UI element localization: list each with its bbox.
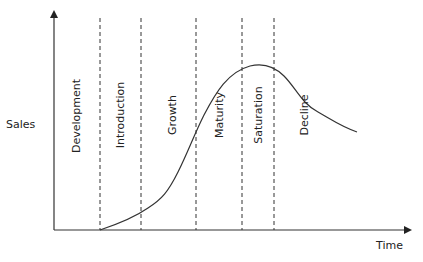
stage-label-growth: Growth <box>166 95 179 135</box>
stage-label-development: Development <box>70 78 83 153</box>
product-life-cycle-diagram: Sales Time Development Introduction Grow… <box>0 0 423 262</box>
stage-label-decline: Decline <box>298 94 311 135</box>
sales-curve <box>100 65 357 230</box>
stage-label-saturation: Saturation <box>252 86 265 143</box>
stage-label-introduction: Introduction <box>114 82 127 149</box>
diagram-canvas: Sales Time Development Introduction Grow… <box>0 0 423 262</box>
x-axis-label: Time <box>375 239 403 252</box>
stage-label-maturity: Maturity <box>213 92 226 138</box>
y-axis-label: Sales <box>6 118 36 131</box>
